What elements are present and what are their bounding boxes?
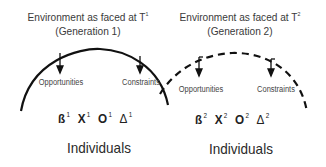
opportunities-label-gen2: Opportunities xyxy=(174,84,229,94)
individuals-label-gen1: Individuals xyxy=(63,139,135,156)
title-text: Environment as faced at T xyxy=(28,11,146,23)
arrow-down-icon xyxy=(57,53,63,73)
generation-2-title: Environment as faced at T2 (Generation 2… xyxy=(170,7,311,38)
opportunities-label-gen1: Opportunities xyxy=(34,77,89,87)
symbols-row-gen1: ß1X1O1Δ1 xyxy=(58,111,140,126)
arrow-down-icon xyxy=(196,57,203,76)
generation-1-title: Environment as faced at T1 (Generation 1… xyxy=(18,7,159,38)
symbol-beta: ß1 xyxy=(58,111,70,126)
symbol-delta: Δ2 xyxy=(257,112,270,127)
symbol-o: O1 xyxy=(98,111,112,126)
constraints-label-gen2: Constraints xyxy=(251,84,300,94)
constraints-label-gen1: Constraints xyxy=(116,77,165,87)
environment-arc-gen2 xyxy=(160,53,307,112)
generation-label: (Generation 1) xyxy=(18,24,159,38)
generation-label: (Generation 2) xyxy=(170,24,311,38)
symbol-x: X1 xyxy=(78,111,91,126)
title-superscript: 2 xyxy=(298,11,301,17)
symbol-o: O2 xyxy=(235,112,249,127)
symbols-row-gen2: ß2X2O2Δ2 xyxy=(195,112,277,127)
symbol-delta: Δ1 xyxy=(120,111,133,126)
title-text: Environment as faced at T xyxy=(180,11,298,23)
symbol-x: X2 xyxy=(215,112,228,127)
symbol-beta: ß2 xyxy=(195,112,207,127)
title-superscript: 1 xyxy=(146,11,149,17)
individuals-label-gen2: Individuals xyxy=(205,140,277,157)
